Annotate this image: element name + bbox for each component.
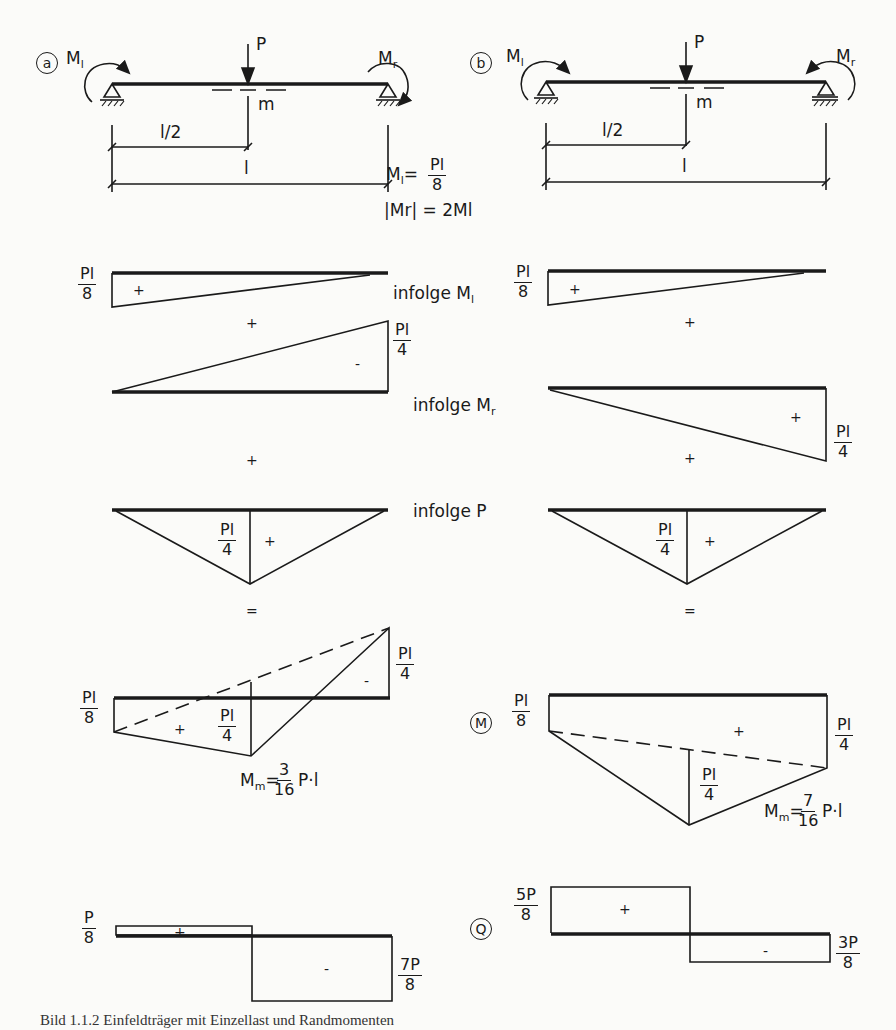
- figure-caption: Bild 1.1.2 Einfeldträger mit Einzellast …: [40, 1012, 394, 1029]
- b-m-left-value: Pl8: [512, 693, 530, 730]
- a-p-sign: +: [264, 534, 276, 548]
- beam-b: [521, 42, 855, 190]
- dim-half-label-b: l/2: [602, 122, 623, 139]
- a-mr-sign: -: [355, 357, 360, 371]
- moment-left-label-a: Ml: [66, 50, 84, 70]
- a-mm-fraction: 316: [274, 762, 294, 799]
- load-label-b: P: [694, 34, 704, 51]
- load-label-a: P: [256, 36, 266, 53]
- a-plus-2: +: [246, 453, 258, 467]
- dim-half-label-a: l/2: [160, 124, 181, 141]
- row-label-infolge-mr: infolge Mr: [413, 397, 495, 417]
- condition-ml-value: Pl8: [428, 157, 446, 194]
- a-m-neg-sign: -: [364, 674, 369, 688]
- b-plus-2: +: [684, 451, 696, 465]
- condition-mr-label: |Mr| = 2Ml: [384, 202, 472, 219]
- condition-ml-label: Ml=: [386, 166, 418, 186]
- midpoint-label-b: m: [696, 94, 713, 111]
- row-label-infolge-ml: infolge Ml: [393, 285, 474, 305]
- b-mm-fraction: 716: [798, 793, 818, 830]
- moment-right-label-a: Mr: [378, 50, 397, 70]
- case-b-marker: b: [470, 52, 492, 74]
- a-m-left-value: Pl8: [80, 690, 98, 727]
- midpoint-label-a: m: [258, 96, 275, 113]
- a-q-left-value: P8: [82, 910, 96, 947]
- b-p-value: Pl4: [656, 522, 674, 559]
- b-mr-sign: +: [790, 410, 802, 424]
- b-q-neg-sign: -: [763, 944, 768, 958]
- a-mm-suffix: P·l: [298, 772, 318, 789]
- a-ml-sign: +: [133, 283, 145, 297]
- a-p-value: Pl4: [218, 522, 236, 559]
- moment-right-label-b: Mr: [836, 48, 855, 68]
- a-q-pos-sign: +: [174, 925, 186, 939]
- b-m-right-value: Pl4: [835, 717, 853, 754]
- a-plus-1: +: [246, 316, 258, 330]
- b-m-mid-value: Pl4: [700, 767, 718, 804]
- b-mr-value: Pl4: [834, 424, 852, 461]
- a-mr-value: Pl4: [393, 322, 411, 359]
- b-p-sign: +: [704, 534, 716, 548]
- b-q-left-value: 5P8: [514, 887, 538, 924]
- b-q-pos-sign: +: [619, 902, 631, 916]
- a-ml-value: Pl8: [78, 266, 96, 303]
- case-a-marker: a: [36, 52, 58, 74]
- a-q-right-value: 7P8: [398, 957, 422, 994]
- a-m-pos-sign: +: [174, 722, 186, 736]
- dim-full-label-a: l: [244, 160, 249, 177]
- b-ml-value: Pl8: [514, 264, 532, 301]
- a-q-neg-sign: -: [324, 962, 329, 976]
- b-mm-suffix: P·l: [822, 803, 842, 820]
- dim-full-label-b: l: [682, 158, 687, 175]
- b-plus-1: +: [684, 315, 696, 329]
- shear-diagram-marker: Q: [470, 918, 492, 940]
- a-equals: =: [246, 604, 258, 618]
- b-equals: =: [684, 604, 696, 618]
- b-ml-sign: +: [569, 282, 581, 296]
- moment-diagram-marker: M: [470, 712, 492, 734]
- a-m-mid-value: Pl4: [218, 708, 236, 745]
- moment-left-label-b: Ml: [506, 48, 524, 68]
- row-label-infolge-p: infolge P: [413, 503, 487, 520]
- b-q-right-value: 3P8: [836, 935, 860, 972]
- b-m-pos-sign: +: [733, 724, 745, 738]
- a-m-right-value: Pl4: [396, 646, 414, 683]
